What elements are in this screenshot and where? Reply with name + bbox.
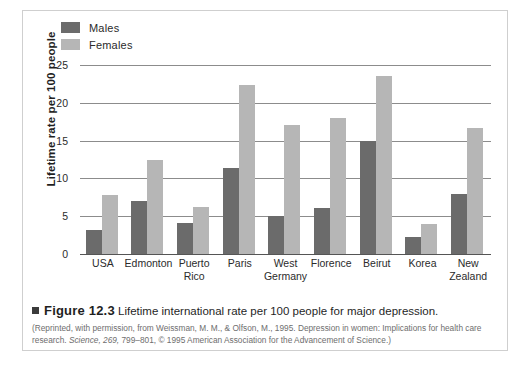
bar-females-edmonton [147, 160, 163, 255]
caption-source: (Reprinted, with permission, from Weissm… [32, 323, 484, 346]
legend-label-females: Females [89, 39, 133, 51]
x-axis-line [80, 254, 491, 255]
bar-groups [80, 65, 491, 254]
bar-group [445, 65, 491, 254]
bar-males-puerto-rico [177, 223, 193, 254]
bar-males-edmonton [131, 201, 147, 254]
caption-source-line1: (Reprinted, with permission, from Weissm… [32, 323, 438, 333]
caption-main: Figure 12.3 Lifetime international rate … [32, 303, 500, 319]
bar-group [308, 65, 354, 254]
bar-females-florence [330, 118, 346, 254]
bar-group [217, 65, 263, 254]
bar-group [263, 65, 309, 254]
bar-females-west-germany [284, 125, 300, 254]
x-axis-labels: USAEdmontonPuertoRicoParisWestGermanyFlo… [80, 257, 491, 291]
bar-males-beirut [360, 141, 376, 254]
caption-title: Lifetime international rate per 100 peop… [118, 305, 438, 317]
y-tick-label: 0 [34, 248, 68, 260]
legend-item-females: Females [61, 36, 133, 53]
bar-males-korea [405, 237, 421, 254]
bar-group [354, 65, 400, 254]
caption-source-journal: Science, 269, [69, 335, 119, 345]
caption-source-line2b: 799–801, © 1995 American Association for… [119, 335, 391, 345]
legend-item-males: Males [61, 19, 133, 36]
legend-label-males: Males [89, 22, 119, 34]
bar-males-west-germany [268, 216, 284, 254]
y-tick-label: 5 [34, 210, 68, 222]
bar-females-usa [102, 195, 118, 254]
bar-females-beirut [376, 76, 392, 254]
chart-legend: Males Females [61, 19, 133, 53]
bar-group [171, 65, 217, 254]
x-tick-label-line: Germany [255, 270, 317, 283]
figure-frame: Males Females 0510152025 Lifetime rate p… [22, 10, 508, 351]
bar-males-new-zealand [451, 194, 467, 254]
x-tick-label-line: New [437, 257, 499, 270]
figure-caption: Figure 12.3 Lifetime international rate … [32, 303, 500, 346]
caption-figure-number: Figure 12.3 [44, 303, 115, 318]
bar-group [80, 65, 126, 254]
y-axis-label: Lifetime rate per 100 people [45, 19, 57, 199]
legend-swatch-females [61, 39, 80, 50]
legend-swatch-males [61, 22, 80, 33]
x-tick-label: NewZealand [437, 257, 499, 282]
bar-males-florence [314, 208, 330, 254]
bar-group [400, 65, 446, 254]
bar-females-puerto-rico [193, 207, 209, 254]
bar-females-paris [239, 85, 255, 254]
bar-males-paris [223, 168, 239, 254]
x-tick-label-line: Rico [163, 270, 225, 283]
bar-group [126, 65, 172, 254]
x-tick-label-line: Zealand [437, 270, 499, 283]
bar-females-korea [421, 224, 437, 254]
bar-females-new-zealand [467, 128, 483, 254]
bar-males-usa [86, 230, 102, 254]
square-bullet-icon [32, 307, 39, 314]
